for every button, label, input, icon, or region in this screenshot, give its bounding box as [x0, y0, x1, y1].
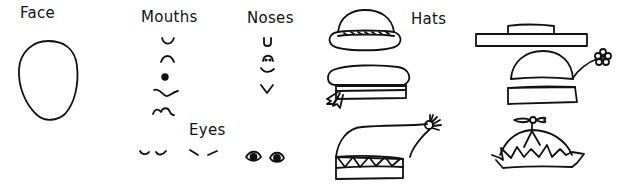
mouth-smile-icon	[162, 38, 174, 44]
eyes-open-icon	[246, 152, 284, 162]
mouth-dot-icon	[162, 74, 168, 80]
face-oval-icon	[19, 41, 78, 120]
nose-curve-icon	[261, 68, 274, 72]
eyes-closed-icon	[140, 151, 166, 155]
mouth-squiggle-icon	[153, 108, 174, 115]
mouth-frown-icon	[161, 56, 174, 62]
eyes-slanted-icon	[190, 150, 217, 155]
hat-bowler-icon	[330, 10, 401, 50]
nose-v-icon	[261, 85, 273, 93]
hat-sailor-cap-icon	[327, 65, 409, 108]
drawings	[0, 0, 631, 188]
hat-flat-top-icon	[476, 25, 587, 47]
hat-flower-icon	[508, 49, 611, 104]
hat-propeller-beanie-icon	[492, 117, 584, 168]
nose-u-icon	[264, 38, 271, 46]
mouth-wavy-icon	[154, 90, 178, 97]
sticker-sheet: Face Mouths Noses Eyes Hats	[0, 0, 631, 188]
hat-stocking-cap-icon	[336, 115, 441, 179]
nose-dotted-arc-icon	[263, 56, 273, 61]
